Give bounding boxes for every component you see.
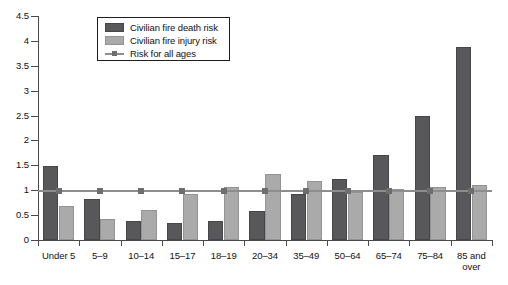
reference-line-marker [468,188,474,194]
bar-civilian-fire-death-risk [456,47,471,240]
y-axis-tick [31,66,38,67]
legend-color-swatch [105,23,124,32]
bar-civilian-fire-injury-risk [224,187,239,240]
y-axis-tick-label-text: 4 [1,36,29,46]
legend-item-label: Civilian fire death risk [130,22,218,33]
y-axis-tick-label-text: 3 [1,86,29,96]
y-axis-tick [31,215,38,216]
y-axis-tick-label-text: 0.5 [1,210,29,220]
x-axis-category-label: 5–9 [79,250,120,261]
y-axis-tick-label: 3 [0,86,29,96]
y-axis-tick-label-text: 1.5 [1,160,29,170]
reference-line-marker [345,188,351,194]
bar-civilian-fire-injury-risk [59,206,74,240]
x-axis-tick [121,240,122,246]
y-axis-tick-label-text: 1 [1,185,29,195]
x-axis-tick [203,240,204,246]
reference-line-marker [427,188,433,194]
legend-item: Civilian fire death risk [105,21,229,34]
bar-civilian-fire-injury-risk [141,210,156,240]
x-axis-tick [286,240,287,246]
bar-civilian-fire-injury-risk [389,189,404,240]
bar-civilian-fire-death-risk [291,194,306,240]
bar-civilian-fire-death-risk [208,221,223,240]
x-axis-category-label: 15–17 [162,250,203,261]
bar-civilian-fire-death-risk [126,221,141,240]
bar-civilian-fire-injury-risk [100,219,115,240]
bar-civilian-fire-death-risk [167,223,182,240]
legend-item: Risk for all ages [105,47,229,60]
legend-item-label: Civilian fire injury risk [130,35,217,46]
y-axis-tick-label: 1 [0,185,29,195]
bar-civilian-fire-injury-risk [265,174,280,240]
bar-civilian-fire-death-risk [84,199,99,240]
reference-line-marker [56,188,62,194]
reference-line-marker [262,188,268,194]
x-axis-category-label: 35–49 [286,250,327,261]
y-axis-tick-label: 2.5 [0,111,29,121]
x-axis-tick [492,240,493,246]
legend-item-label: Risk for all ages [130,48,196,59]
bar-civilian-fire-death-risk [43,166,58,240]
reference-line-marker [138,188,144,194]
x-axis-category-label: 20–34 [244,250,285,261]
y-axis-tick [31,116,38,117]
chart-legend: Civilian fire death riskCivilian fire in… [97,17,230,61]
bar-civilian-fire-death-risk [415,116,430,240]
x-axis-category-label: 75–84 [409,250,450,261]
legend-line-marker-icon [105,49,124,58]
reference-line-marker [179,188,185,194]
y-axis-tick-label: 4 [0,36,29,46]
reference-line-marker [221,188,227,194]
y-axis-tick [31,91,38,92]
y-axis-tick-label: 0.5 [0,210,29,220]
x-axis-tick [327,240,328,246]
y-axis-tick-label-text: 3.5 [1,61,29,71]
bar-civilian-fire-death-risk [249,211,264,240]
x-axis-tick [79,240,80,246]
y-axis-tick-label: 0 [0,235,29,245]
y-axis-tick-label: 1.5 [0,160,29,170]
x-axis-category-label: Under 5 [38,250,79,261]
x-axis-category-label: 85 and over [451,250,492,272]
bar-civilian-fire-death-risk [373,155,388,240]
y-axis-tick-label-text: 2.5 [1,111,29,121]
bar-civilian-fire-injury-risk [183,194,198,240]
x-axis-category-label: 65–74 [368,250,409,261]
legend-item: Civilian fire injury risk [105,34,229,47]
x-axis-category-label: 10–14 [121,250,162,261]
y-axis-tick [31,240,38,241]
x-axis-tick [409,240,410,246]
reference-line-marker [386,188,392,194]
y-axis-tick [31,165,38,166]
y-axis-tick [31,190,38,191]
reference-line-marker [303,188,309,194]
x-axis-tick [38,240,39,246]
y-axis-tick [31,41,38,42]
reference-line-marker [97,188,103,194]
x-axis-category-label: 18–19 [203,250,244,261]
y-axis-tick [31,140,38,141]
x-axis-line [38,240,493,241]
x-axis-tick [368,240,369,246]
x-axis-category-label: 50–64 [327,250,368,261]
y-axis-tick-label-text: 0 [1,235,29,245]
y-axis-tick [31,16,38,17]
bar-civilian-fire-injury-risk [430,187,445,240]
x-axis-tick [244,240,245,246]
x-axis-tick [162,240,163,246]
legend-color-swatch [105,36,124,45]
y-axis-tick-label: 4.5 [0,11,29,21]
x-axis-tick [451,240,452,246]
y-axis-tick-label: 3.5 [0,61,29,71]
y-axis-tick-label: 2 [0,135,29,145]
y-axis-tick-label-text: 4.5 [1,11,29,21]
bar-civilian-fire-injury-risk [348,192,363,240]
y-axis-tick-label-text: 2 [1,135,29,145]
fire-risk-bar-chart: 00.511.522.533.544.5 Under 55–910–1415–1… [0,0,508,285]
